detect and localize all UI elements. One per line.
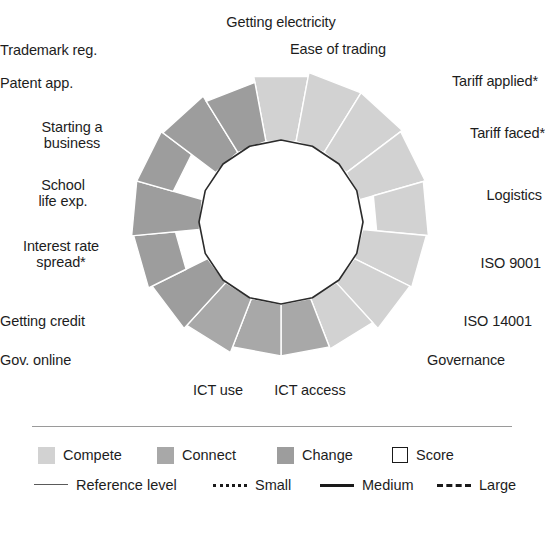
axis-label-gov-online: Gov. online <box>0 353 196 369</box>
axis-label-logistics: Logistics <box>392 188 542 204</box>
axis-label-school-life-exp: School life exp. <box>8 178 118 209</box>
legend-divider <box>32 426 512 427</box>
legend-label-small: Small <box>255 477 291 493</box>
legend-line-row: Reference level Small Medium Large <box>0 472 544 498</box>
legend-label-compete: Compete <box>63 447 122 463</box>
axis-label-iso-9001: ISO 9001 <box>391 256 541 272</box>
legend-item-connect: Connect <box>157 442 236 468</box>
legend-item-small: Small <box>213 472 291 498</box>
legend-item-change: Change <box>277 442 353 468</box>
axis-label-iso-14001: ISO 14001 <box>372 314 532 330</box>
legend-label-change: Change <box>302 447 353 463</box>
legend-swatch-row: Compete Connect Change Score <box>0 442 544 468</box>
radar-chart: Getting electricity Ease of trading Tari… <box>0 0 544 420</box>
axis-label-trademark-reg: Trademark reg. <box>0 43 216 59</box>
small-line-icon <box>213 478 247 492</box>
legend-item-medium: Medium <box>320 472 414 498</box>
axis-label-interest-rate-spread: Interest rate spread* <box>0 239 122 270</box>
legend-label-medium: Medium <box>362 477 414 493</box>
axis-label-tariff-applied: Tariff applied* <box>378 74 538 90</box>
axis-label-getting-electricity: Getting electricity <box>181 15 381 31</box>
axis-label-starting-a-business: Starting a business <box>12 120 132 151</box>
medium-line-icon <box>320 478 354 492</box>
large-line-icon <box>437 478 471 492</box>
axis-label-getting-credit: Getting credit <box>0 314 160 330</box>
axis-label-ict-access: ICT access <box>255 383 365 399</box>
legend-label-score: Score <box>416 447 454 463</box>
reference-level-line-icon <box>34 478 68 492</box>
axis-label-ict-use: ICT use <box>168 383 268 399</box>
axis-label-patent-app: Patent app. <box>0 76 172 92</box>
chart-legend: Compete Connect Change Score Reference l… <box>0 420 544 535</box>
legend-label-connect: Connect <box>182 447 236 463</box>
axis-label-ease-of-trading: Ease of trading <box>226 42 386 58</box>
legend-item-reference-level: Reference level <box>34 472 177 498</box>
legend-swatch-change <box>277 447 294 464</box>
legend-label-large: Large <box>479 477 516 493</box>
axis-label-tariff-faced: Tariff faced* <box>385 126 545 142</box>
legend-item-compete: Compete <box>38 442 122 468</box>
legend-label-reference-level: Reference level <box>76 477 177 493</box>
axis-label-governance: Governance <box>325 353 505 369</box>
legend-swatch-connect <box>157 447 174 464</box>
legend-item-large: Large <box>437 472 516 498</box>
legend-swatch-score <box>392 447 408 463</box>
legend-swatch-compete <box>38 447 55 464</box>
legend-item-score: Score <box>392 442 454 468</box>
